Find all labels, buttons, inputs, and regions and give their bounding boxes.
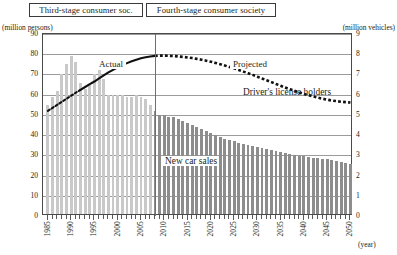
x-axis-ticks [42, 215, 352, 220]
y-tick-90: 90 [22, 29, 38, 38]
x-tick-2008 [154, 215, 155, 219]
x-tick-2047 [335, 215, 336, 219]
x-tick-label-2030: 2030 [252, 221, 261, 237]
x-tick-2034 [275, 215, 276, 219]
y-tick-50: 50 [22, 110, 38, 119]
y2-tick-5: 5 [356, 110, 372, 119]
x-tick-1997 [103, 215, 104, 219]
annotation-actual: Actual [96, 59, 126, 69]
annotation-drivers-license-holders: Driver's license holders [243, 87, 331, 97]
x-tick-label-2000: 2000 [113, 221, 122, 237]
x-tick-1989 [66, 215, 67, 219]
x-tick-2036 [284, 215, 285, 219]
x-tick-2017 [196, 215, 197, 219]
x-tick-2006 [145, 215, 146, 219]
x-tick-2033 [270, 215, 271, 219]
y-tick-70: 70 [22, 69, 38, 78]
x-tick-1987 [56, 215, 57, 219]
x-tick-2000 [117, 215, 118, 220]
x-tick-label-2015: 2015 [183, 221, 192, 237]
x-tick-2015 [187, 215, 188, 220]
x-tick-2031 [261, 215, 262, 219]
x-tick-2048 [340, 215, 341, 219]
x-tick-2003 [131, 215, 132, 219]
x-tick-label-2050: 2050 [345, 221, 354, 237]
x-tick-1988 [61, 215, 62, 219]
x-tick-2022 [219, 215, 220, 219]
line-series-drivers-license-holders [43, 34, 353, 216]
y2-tick-0: 0 [356, 211, 372, 220]
y2-tick-9: 9 [356, 29, 372, 38]
x-tick-label-2040: 2040 [299, 221, 308, 237]
y2-tick-4: 4 [356, 130, 372, 139]
x-tick-2027 [242, 215, 243, 219]
x-tick-2028 [247, 215, 248, 219]
x-tick-label-2020: 2020 [206, 221, 215, 237]
y-tick-60: 60 [22, 90, 38, 99]
fourth-stage-label-box: Fourth-stage consumer society [146, 3, 276, 17]
y-tick-30: 30 [22, 150, 38, 159]
x-tick-1992 [79, 215, 80, 219]
x-tick-2005 [140, 215, 141, 220]
x-tick-2032 [266, 215, 267, 219]
x-tick-label-2005: 2005 [136, 221, 145, 237]
x-tick-label-2010: 2010 [159, 221, 168, 237]
x-tick-2018 [200, 215, 201, 219]
y2-tick-2: 2 [356, 171, 372, 180]
y-tick-10: 10 [22, 191, 38, 200]
x-tick-1990 [70, 215, 71, 220]
x-tick-2037 [289, 215, 290, 219]
x-tick-2035 [280, 215, 281, 220]
x-tick-1994 [89, 215, 90, 219]
x-tick-2026 [238, 215, 239, 219]
x-axis-unit-label: (year) [358, 240, 376, 249]
y-tick-20: 20 [22, 171, 38, 180]
x-tick-2041 [308, 215, 309, 219]
y2-tick-1: 1 [356, 191, 372, 200]
x-tick-2030 [256, 215, 257, 220]
x-tick-2039 [298, 215, 299, 219]
x-tick-label-1990: 1990 [66, 221, 75, 237]
plot-area: Actual Projected Driver's license holder… [42, 33, 352, 215]
x-tick-2042 [312, 215, 313, 219]
x-tick-2001 [121, 215, 122, 219]
x-tick-label-2025: 2025 [229, 221, 238, 237]
x-tick-2013 [177, 215, 178, 219]
annotation-new-car-sales: New car sales [163, 156, 219, 166]
x-tick-2004 [135, 215, 136, 219]
x-tick-2040 [303, 215, 304, 220]
x-tick-2024 [228, 215, 229, 219]
x-tick-label-2035: 2035 [276, 221, 285, 237]
actual-projected-divider [155, 34, 156, 216]
x-tick-2020 [210, 215, 211, 220]
x-tick-2049 [345, 215, 346, 219]
x-tick-1986 [52, 215, 53, 219]
x-tick-1985 [47, 215, 48, 220]
y-tick-80: 80 [22, 49, 38, 58]
y2-tick-3: 3 [356, 150, 372, 159]
x-tick-label-2045: 2045 [322, 221, 331, 237]
x-tick-2029 [252, 215, 253, 219]
x-tick-2011 [168, 215, 169, 219]
x-tick-label-1985: 1985 [43, 221, 52, 237]
x-tick-2007 [149, 215, 150, 219]
x-tick-label-1995: 1995 [89, 221, 98, 237]
x-tick-2045 [326, 215, 327, 220]
x-tick-2023 [224, 215, 225, 219]
x-tick-2025 [233, 215, 234, 220]
x-tick-2019 [205, 215, 206, 219]
y-tick-0: 0 [22, 211, 38, 220]
y2-tick-6: 6 [356, 90, 372, 99]
x-tick-2044 [322, 215, 323, 219]
y-tick-40: 40 [22, 130, 38, 139]
x-tick-1991 [75, 215, 76, 219]
y2-tick-8: 8 [356, 49, 372, 58]
x-tick-2014 [182, 215, 183, 219]
y2-tick-7: 7 [356, 69, 372, 78]
chart-canvas: Third-stage consumer soc. Fourth-stage c… [0, 0, 397, 255]
x-tick-2043 [317, 215, 318, 219]
x-tick-1996 [98, 215, 99, 219]
x-tick-2010 [163, 215, 164, 220]
x-tick-1998 [107, 215, 108, 219]
x-tick-2021 [214, 215, 215, 219]
